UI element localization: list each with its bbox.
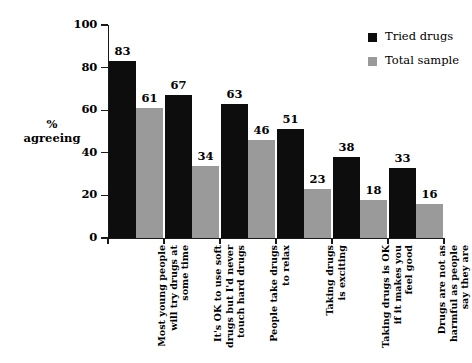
x-tick-mark [443, 238, 444, 244]
bar-value-label: 61 [133, 93, 167, 105]
x-category-label-line: drugs but I'd never [224, 245, 236, 361]
x-category-label-line: if it makes you [392, 245, 404, 361]
x-category-label-line: Drugs are not as [436, 245, 448, 361]
bar [165, 95, 192, 238]
bar-value-label: 23 [301, 174, 335, 186]
x-category-label-line: Taking drugs [324, 245, 336, 361]
legend-swatch-black [368, 33, 377, 42]
bar [360, 200, 387, 238]
bar [136, 108, 163, 238]
bar-value-label: 34 [189, 151, 223, 163]
bar [389, 168, 416, 238]
y-tick-label: 100 [51, 19, 97, 31]
x-category-label-line: People take drugs [268, 245, 280, 361]
y-tick-mark [101, 152, 108, 153]
bar-value-label: 51 [274, 114, 308, 126]
y-axis-title-line-1: % [14, 117, 90, 131]
x-category-label-line: feel good [403, 245, 415, 361]
bar [333, 157, 360, 238]
x-tick-mark [163, 238, 164, 244]
y-tick-mark [101, 110, 108, 111]
bar [304, 189, 331, 238]
x-category-label-line: will try drugs at [168, 245, 180, 361]
x-tick-mark [219, 238, 220, 244]
x-category-label: People take drugsto relax [268, 245, 291, 361]
legend-label: Total sample [385, 53, 459, 67]
y-tick-mark [101, 67, 108, 68]
y-tick-label-wrap: 20 [49, 189, 97, 201]
bar-value-label: 33 [386, 153, 420, 165]
y-tick-label-wrap: 100 [49, 19, 97, 31]
bar-value-label: 83 [106, 46, 140, 58]
bar [192, 166, 219, 238]
y-tick-label: 80 [51, 62, 97, 74]
x-category-label: Drugs are not asharmful as peoplesay the… [436, 245, 471, 361]
y-tick-label: 0 [51, 232, 97, 244]
bar-value-label: 16 [413, 189, 447, 201]
y-axis-title-line-2: agreeing [14, 131, 90, 145]
bar-value-label: 18 [357, 185, 391, 197]
x-category-label-line: Most young people [156, 245, 168, 361]
x-category-label-line: some time [179, 245, 191, 361]
x-tick-mark [331, 238, 332, 244]
bar [221, 104, 248, 238]
y-axis-title: % agreeing [14, 117, 90, 146]
bar-value-label: 63 [218, 89, 252, 101]
x-category-label-line: is exciting [336, 245, 348, 361]
legend-swatch-gray [368, 57, 377, 66]
x-category-label: It's OK to use softdrugs but I'd neverto… [212, 245, 247, 361]
x-category-label-line: touch hard drugs [235, 245, 247, 361]
y-tick-label-wrap: 40 [49, 147, 97, 159]
x-category-label-line: say they are [459, 245, 471, 361]
x-category-label-line: It's OK to use soft [212, 245, 224, 361]
x-category-label: Taking drugs is OKif it makes youfeel go… [380, 245, 415, 361]
x-category-label: Most young peoplewill try drugs atsome t… [156, 245, 191, 361]
x-category-label-line: Taking drugs is OK [380, 245, 392, 361]
bar [109, 61, 136, 238]
y-tick-mark [101, 195, 108, 196]
bar-chart: % agreeing 020406080100 8361673463465123… [0, 0, 472, 363]
y-tick-label: 40 [51, 147, 97, 159]
y-tick-label: 60 [51, 104, 97, 116]
y-tick-label-wrap: 60 [49, 104, 97, 116]
bar-value-label: 46 [245, 125, 279, 137]
x-tick-mark [275, 238, 276, 244]
bar-value-label: 67 [162, 80, 196, 92]
x-category-label-line: to relax [280, 245, 292, 361]
x-tick-mark [387, 238, 388, 244]
bar [248, 140, 275, 238]
bar [416, 204, 443, 238]
y-tick-label-wrap: 80 [49, 62, 97, 74]
y-tick-label-wrap: 0 [49, 232, 97, 244]
bar-value-label: 38 [330, 142, 364, 154]
legend-label: Tried drugs [385, 29, 453, 43]
y-tick-mark [101, 24, 108, 25]
x-tick-mark [107, 238, 108, 244]
x-category-label-line: harmful as people [448, 245, 460, 361]
y-tick-label: 20 [51, 189, 97, 201]
x-category-label: Taking drugsis exciting [324, 245, 347, 361]
